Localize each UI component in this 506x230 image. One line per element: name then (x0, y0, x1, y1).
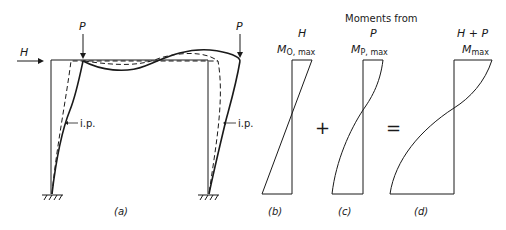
panel-d-moment-diagram: H + P Mmax (d) (390, 27, 492, 217)
solid-deflected-left-column (52, 61, 83, 194)
panel-c-moment-diagram: P MP, max (c) (332, 27, 388, 217)
horizontal-load-label: H (20, 46, 28, 59)
equals-operator: = (386, 117, 401, 138)
vertical-load-right-arrow-icon (237, 34, 243, 58)
vertical-load-left-label: P (79, 20, 86, 33)
panel-a-frame: H P P i.p. i.p. (a) (17, 20, 253, 217)
vertical-load-right-label: P (236, 20, 243, 33)
inflection-label-left: i.p. (80, 118, 95, 129)
panel-d-curve (390, 60, 492, 194)
vertical-load-left-arrow-icon (80, 34, 86, 59)
panel-b-moment-diagram: H MO, max (b) (262, 27, 316, 217)
panel-b-load-label: H (298, 27, 306, 40)
moments-from-title: Moments from (345, 13, 418, 24)
panel-a-caption: (a) (114, 206, 128, 217)
panel-c-moment-label: MP, max (351, 43, 388, 57)
panel-b-caption: (b) (268, 206, 282, 217)
panel-d-caption: (d) (414, 206, 428, 217)
panel-c-load-label: P (370, 27, 377, 40)
fixed-support-right-icon (198, 195, 219, 200)
solid-deflected-right-column (209, 61, 240, 194)
panel-c-caption: (c) (338, 206, 351, 217)
undeformed-frame (51, 60, 208, 194)
inflection-label-right: i.p. (238, 118, 253, 129)
panel-d-load-label: H + P (457, 27, 488, 40)
frame-moment-diagram: H P P i.p. i.p. (a) (0, 0, 506, 230)
plus-operator: + (315, 117, 330, 138)
inflection-pointer-left (65, 121, 78, 125)
fixed-support-left-icon (42, 195, 63, 200)
panel-c-curve (332, 60, 383, 194)
dashed-deflected-shape (52, 61, 220, 194)
panel-d-moment-label: Mmax (462, 43, 489, 57)
panel-b-moment-label: MO, max (277, 43, 316, 57)
panel-b-box (262, 60, 312, 194)
